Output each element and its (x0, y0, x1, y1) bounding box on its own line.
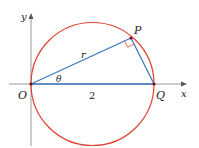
segment-pq (131, 38, 154, 84)
y-axis-arrow-icon (29, 13, 34, 19)
axes (9, 13, 187, 146)
point-q-label: Q (156, 89, 165, 102)
diameter-length-label: 2 (89, 90, 95, 101)
segment-op (31, 38, 131, 84)
x-axis-label: x (181, 88, 187, 99)
point-q (152, 82, 155, 85)
triangle-opq (31, 38, 154, 84)
point-p (129, 36, 132, 39)
point-o-label: O (18, 89, 27, 102)
x-axis-arrow-icon (181, 82, 187, 87)
point-o (29, 82, 32, 85)
point-p-label: P (133, 24, 142, 37)
y-axis-label: y (20, 11, 27, 22)
diagram-canvas: y x O P Q r θ 2 (0, 0, 199, 148)
angle-theta-label: θ (56, 74, 62, 84)
